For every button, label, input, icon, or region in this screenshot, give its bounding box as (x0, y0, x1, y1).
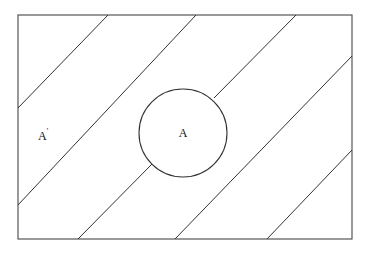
hatch-line (78, 164, 152, 239)
hatch-line (267, 150, 352, 239)
complement-label: A' (38, 127, 49, 143)
venn-diagram: A A' (0, 0, 375, 253)
hatch-line (214, 15, 296, 98)
hatch-line (18, 15, 108, 108)
set-a-label: A (179, 126, 188, 140)
